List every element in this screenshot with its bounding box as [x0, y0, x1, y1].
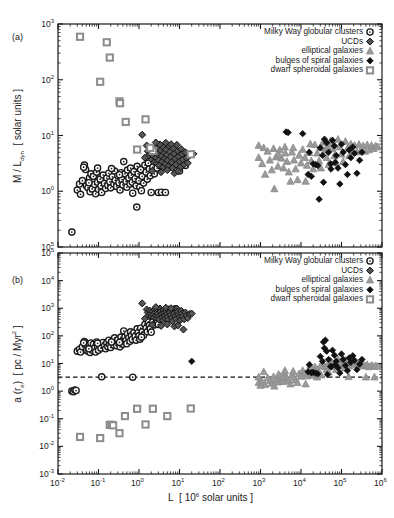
x-axis-title: L [ 106 solar units ]	[168, 492, 253, 503]
panel-a-legend-label: dwarf spheroidal galaxies	[271, 65, 363, 74]
panel-b-legend-label: Milky Way globular clusters	[264, 256, 363, 265]
xtick-label: 10-1	[91, 477, 106, 488]
panel-b-ytick-label: 10-2	[39, 440, 54, 451]
panel-b-ytick-label: 105	[41, 247, 54, 258]
series-dwarf-spheroidal-galaxies	[77, 405, 194, 441]
legend-marker-gray-triangle	[366, 47, 373, 54]
legend-marker-gray-diamond	[367, 38, 374, 45]
legend-marker-black-diamond	[367, 287, 373, 293]
panel-b-ytick-label: 102	[41, 330, 54, 341]
xtick-label: 100	[131, 477, 144, 488]
panel-a-ytick-label: 100	[41, 185, 54, 196]
panel-b-legend-label: UCDs	[341, 266, 363, 275]
legend-marker-gray-diamond	[367, 267, 374, 274]
panel-b-ytick-label: 101	[41, 358, 54, 369]
panel-b-ytick-label: 104	[41, 275, 54, 286]
legend-marker-gray-square	[367, 67, 373, 73]
panel-a-legend-label: Milky Way globular clusters	[264, 27, 363, 36]
panel-b-ytick-label: 103	[41, 302, 54, 313]
xtick-label: 103	[253, 477, 266, 488]
panel-a-ytick-label: 102	[41, 74, 54, 85]
panel-b-legend-label: bulges of spiral galaxies	[276, 285, 363, 294]
panel-a-legend-label: bulges of spiral galaxies	[276, 56, 363, 65]
panel-a-legend-label: UCDs	[341, 37, 363, 46]
xtick-label: 101	[172, 477, 185, 488]
xtick-label: 102	[212, 477, 225, 488]
panel-b-tag: (b)	[12, 275, 23, 285]
panel-b-ytick-label: 10-1	[39, 413, 54, 424]
panel-a-legend-label: elliptical galaxies	[302, 46, 363, 55]
xtick-label: 104	[293, 477, 306, 488]
panel-b-axis-title: a (re) [ pc / Myr2 ]	[11, 325, 24, 402]
legend-marker-black-diamond	[367, 58, 373, 64]
panel-a-ytick-label: 101	[41, 130, 54, 141]
legend-marker-gray-triangle	[366, 276, 373, 283]
panel-b-ytick-label: 100	[41, 385, 54, 396]
series-dwarf-spheroidal-galaxies	[77, 34, 194, 158]
panel-a-tag: (a)	[12, 32, 23, 42]
xtick-label: 105	[334, 477, 347, 488]
panel-b-legend-label: elliptical galaxies	[302, 275, 363, 284]
legend-marker-open-circle-dot	[367, 29, 373, 35]
panel-b-legend-label: dwarf spheroidal galaxies	[271, 294, 363, 303]
panel-a-ytick-label: 103	[41, 18, 54, 29]
legend-marker-gray-square	[367, 296, 373, 302]
panel-b-ytick-label: 10-3	[39, 468, 54, 479]
xtick-label: 106	[374, 477, 387, 488]
legend-marker-open-circle-dot	[367, 258, 373, 264]
panel-a-axis-title: M / Ldyn [ solar units ]	[12, 88, 25, 182]
